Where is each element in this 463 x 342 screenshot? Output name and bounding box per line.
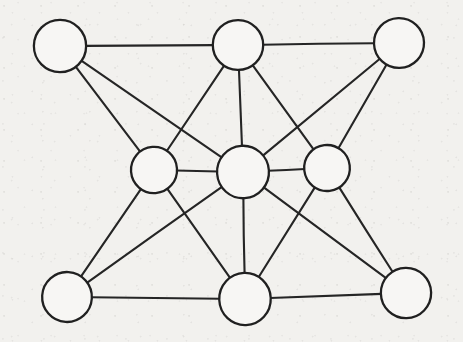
node-circle[interactable] [373,17,424,68]
graph-node-middle-left[interactable] [129,145,178,195]
node-circle[interactable] [380,267,431,318]
graph-node-top-left[interactable] [34,20,86,73]
node-layer [34,17,432,326]
graph-edge [243,197,244,274]
graph-canvas [0,0,463,342]
graph-edge [176,170,218,171]
graph-edge [258,187,315,278]
graph-node-middle-right[interactable] [302,142,353,193]
node-circle[interactable] [218,272,272,326]
graph-edge [85,45,214,46]
graph-edge [252,64,314,150]
graph-edge [268,169,305,171]
graph-edge [339,187,393,273]
node-circle[interactable] [129,145,178,195]
graph-edge [81,188,142,277]
graph-node-bottom-right[interactable] [380,267,431,318]
graph-edge [81,60,223,158]
graph-edge [338,64,387,149]
graph-node-bottom-left[interactable] [41,271,94,324]
graph-edge [87,186,223,283]
node-circle[interactable] [41,271,94,324]
graph-edge [239,69,242,147]
graph-edge [167,188,231,279]
graph-node-bottom-center[interactable] [218,272,272,326]
graph-diagram [0,0,463,342]
graph-node-center[interactable] [215,144,270,200]
node-circle[interactable] [34,20,86,73]
node-circle[interactable] [302,142,353,193]
graph-edge [270,294,382,298]
graph-edge [262,43,375,44]
node-circle[interactable] [215,144,270,200]
graph-edge [91,297,220,298]
graph-node-top-right[interactable] [373,17,424,68]
node-circle[interactable] [213,20,264,70]
graph-node-top-center[interactable] [213,20,264,70]
